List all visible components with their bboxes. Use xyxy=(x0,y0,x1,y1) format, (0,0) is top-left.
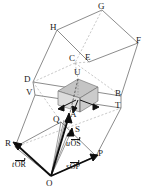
vector-label-s-OP: sOP xyxy=(66,162,80,171)
overline-OR: OR xyxy=(15,160,26,169)
vertex-label-F: F xyxy=(136,36,141,45)
vertex-label-G: G xyxy=(98,2,105,11)
vertex-label-S: S xyxy=(75,125,80,134)
vertex-label-R: R xyxy=(5,139,11,148)
edge-V-R xyxy=(15,95,35,147)
vertex-label-E: E xyxy=(85,53,91,62)
edge-F-E xyxy=(89,43,138,62)
spread-arrow-right-head xyxy=(93,104,99,110)
overline-OP: OP xyxy=(70,162,80,171)
vertex-label-P: P xyxy=(98,149,103,158)
vertex-label-C: C xyxy=(69,54,75,63)
geometry-figure: G H F E C D U V B T A Q S R P O tOR sOP … xyxy=(0,0,148,192)
edge-F-B xyxy=(121,43,138,96)
vertex-label-T: T xyxy=(115,101,121,110)
vertex-label-V: V xyxy=(26,88,33,97)
vertex-label-B: B xyxy=(115,89,121,98)
edge-C-D xyxy=(33,63,75,82)
vertex-label-O: O xyxy=(46,179,53,188)
edge-R-Q xyxy=(15,122,61,147)
edge-G-F xyxy=(102,10,138,43)
edge-C-E xyxy=(75,62,89,63)
edge-H-D xyxy=(33,30,57,82)
vector-label-u-OS: uOS xyxy=(66,139,81,148)
overline-OS: OS xyxy=(71,139,81,148)
vector-O-P-head xyxy=(90,154,98,161)
vertex-label-D: D xyxy=(24,75,31,84)
vertex-label-U: U xyxy=(74,68,81,77)
vertex-label-A: A xyxy=(70,110,77,119)
vertex-label-Q: Q xyxy=(53,115,60,124)
vertex-label-H: H xyxy=(50,23,57,32)
vector-label-t-OR: tOR xyxy=(12,160,26,169)
edge-H-G xyxy=(57,10,102,30)
